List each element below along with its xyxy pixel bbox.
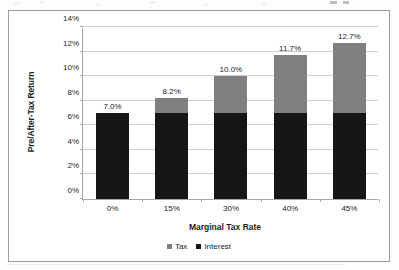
x-tick-mark bbox=[320, 199, 321, 202]
scan-artifact bbox=[262, 3, 266, 4]
scan-artifact bbox=[95, 4, 99, 5]
chart-container: Pre/After-Tax Return 14% bbox=[8, 10, 390, 262]
y-tick-mark bbox=[80, 75, 83, 76]
scan-artifact bbox=[150, 2, 156, 3]
scan-artifact bbox=[6, 264, 346, 265]
x-tick-mark bbox=[142, 199, 143, 202]
bar-segment-interest bbox=[155, 113, 188, 199]
y-tick-mark bbox=[80, 100, 83, 101]
bar-group[interactable]: 12.7% bbox=[333, 43, 366, 199]
bar-value-label: 8.2% bbox=[163, 87, 181, 96]
legend-label-interest: Interest bbox=[204, 242, 231, 251]
scanned-page: Pre/After-Tax Return 14% bbox=[0, 0, 399, 270]
x-tick-mark bbox=[201, 199, 202, 202]
legend-item-interest[interactable]: Interest bbox=[196, 242, 231, 251]
scan-artifact bbox=[330, 1, 337, 4]
scan-artifact bbox=[205, 4, 208, 5]
x-tick-label: 30% bbox=[223, 204, 239, 213]
y-tick-mark bbox=[80, 51, 83, 52]
y-tick-label: 0% bbox=[67, 186, 79, 195]
x-tick-label: 0% bbox=[107, 204, 119, 213]
bar-segment-interest bbox=[274, 113, 307, 199]
plot-inner: 14% 12% 10% 8% 6% 4% 2% 0% 7.0% 8.2% bbox=[82, 28, 378, 200]
y-tick-mark bbox=[80, 26, 83, 27]
scan-artifact bbox=[343, 1, 349, 4]
y-tick-mark bbox=[80, 173, 83, 174]
legend-item-tax[interactable]: Tax bbox=[167, 242, 187, 251]
y-axis-title: Pre/After-Tax Return bbox=[26, 42, 36, 182]
x-tick-mark bbox=[83, 199, 84, 202]
bar-group[interactable]: 7.0% bbox=[96, 113, 129, 199]
y-tick-label: 2% bbox=[67, 161, 79, 170]
bar-segment-tax bbox=[214, 76, 247, 113]
y-tick-label: 8% bbox=[67, 87, 79, 96]
y-tick-label: 12% bbox=[63, 38, 79, 47]
y-tick-label: 10% bbox=[63, 63, 79, 72]
legend-label-tax: Tax bbox=[175, 242, 187, 251]
bar-segment-tax bbox=[274, 55, 307, 113]
y-tick-mark bbox=[80, 149, 83, 150]
y-tick-label: 14% bbox=[63, 14, 79, 23]
scan-artifact bbox=[14, 3, 19, 4]
gridline bbox=[83, 26, 378, 27]
bar-value-label: 10.0% bbox=[220, 65, 243, 74]
y-tick-label: 4% bbox=[67, 136, 79, 145]
plot-area: 14% 12% 10% 8% 6% 4% 2% 0% 7.0% 8.2% bbox=[73, 28, 378, 200]
x-tick-label: 45% bbox=[341, 204, 357, 213]
y-tick-mark bbox=[80, 124, 83, 125]
bar-group[interactable]: 8.2% bbox=[155, 98, 188, 199]
legend-swatch-interest-icon bbox=[196, 244, 201, 249]
x-tick-label: 15% bbox=[164, 204, 180, 213]
bar-segment-interest bbox=[96, 113, 129, 199]
x-axis-title: Marginal Tax Rate bbox=[73, 222, 377, 232]
bar-segment-interest bbox=[333, 113, 366, 199]
x-tick-label: 40% bbox=[282, 204, 298, 213]
x-tick-mark bbox=[379, 199, 380, 202]
bar-value-label: 11.7% bbox=[279, 44, 301, 53]
bar-value-label: 12.7% bbox=[338, 32, 361, 41]
bar-group[interactable]: 11.7% bbox=[274, 55, 307, 199]
chart-legend: Tax Interest bbox=[9, 242, 389, 251]
legend-swatch-tax-icon bbox=[167, 244, 172, 249]
y-tick-label: 6% bbox=[67, 112, 79, 121]
bar-segment-tax bbox=[333, 43, 366, 113]
bar-value-label: 7.0% bbox=[103, 102, 121, 111]
scan-artifact bbox=[40, 2, 43, 3]
bar-group[interactable]: 10.0% bbox=[214, 76, 247, 199]
x-tick-mark bbox=[261, 199, 262, 202]
bar-segment-tax bbox=[155, 98, 188, 113]
bar-segment-interest bbox=[214, 113, 247, 199]
